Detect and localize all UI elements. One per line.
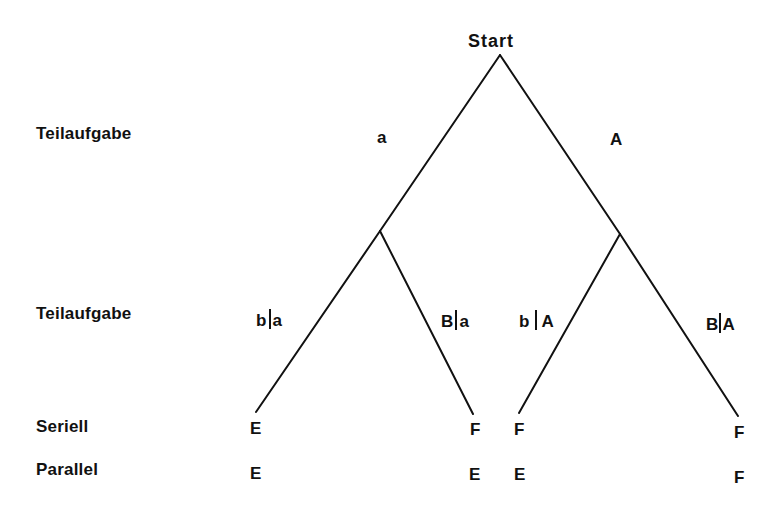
root-label: Start xyxy=(468,32,514,50)
leaf-4-seriell: F xyxy=(734,424,745,441)
row-label-parallel: Parallel xyxy=(36,461,98,478)
conditional-bar xyxy=(269,309,271,329)
given: A xyxy=(722,315,734,334)
branch-label-a: a xyxy=(377,129,387,146)
outcome: b xyxy=(519,312,530,331)
outcome: b xyxy=(256,311,267,330)
row-label-teilaufgabe-2: Teilaufgabe xyxy=(36,305,131,322)
conditional-bar xyxy=(535,310,537,330)
given: A xyxy=(542,312,554,331)
branch-label-b-given-A: bA xyxy=(519,310,554,330)
leaf-1-seriell: E xyxy=(250,420,262,437)
given: a xyxy=(459,312,469,331)
row-label-seriell: Seriell xyxy=(36,418,88,435)
branch-label-B-given-a: Ba xyxy=(441,310,469,330)
leaf-3-seriell: F xyxy=(514,421,525,438)
branch-label-A: A xyxy=(610,131,622,148)
outcome: B xyxy=(706,315,718,334)
conditional-bar xyxy=(455,310,457,330)
leaf-2-parallel: E xyxy=(469,466,481,483)
tree-lines xyxy=(0,0,783,511)
row-label-teilaufgabe-1: Teilaufgabe xyxy=(36,125,131,142)
edge-start-A xyxy=(500,55,620,234)
branch-label-b-given-a: ba xyxy=(256,309,282,329)
leaf-1-parallel: E xyxy=(250,465,262,482)
leaf-2-seriell: F xyxy=(470,421,481,438)
edge-start-a xyxy=(380,55,500,231)
outcome: B xyxy=(441,312,453,331)
leaf-4-parallel: F xyxy=(734,469,745,486)
leaf-3-parallel: E xyxy=(514,466,526,483)
given: a xyxy=(273,311,283,330)
branch-label-B-given-A: BA xyxy=(706,313,735,333)
